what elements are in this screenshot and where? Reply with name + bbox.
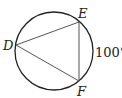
- circle-diagram-svg: D E F 100°: [0, 0, 122, 98]
- chord-df: [16, 45, 79, 81]
- diagram: D E F 100°: [0, 0, 122, 98]
- point-label-e: E: [77, 6, 88, 21]
- arc-measure-label: 100°: [95, 45, 122, 60]
- point-label-f: F: [76, 84, 87, 98]
- chord-de: [16, 22, 79, 45]
- point-label-d: D: [2, 38, 14, 53]
